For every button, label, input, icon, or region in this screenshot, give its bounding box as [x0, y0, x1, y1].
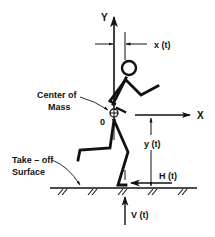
head — [122, 61, 136, 75]
y-axis-label: Y — [101, 12, 108, 23]
center-of-mass-symbol — [110, 109, 118, 117]
x-axis-label: X — [197, 110, 204, 121]
surface-label-line2: Surface — [12, 167, 45, 177]
x-t-label: x (t) — [154, 40, 171, 50]
center-of-mass-label-line1: Center of — [37, 90, 78, 100]
v-t-force: V (t) — [125, 197, 149, 225]
take-off-surface — [50, 188, 197, 195]
surface-leader — [52, 160, 80, 185]
y-t-label: y (t) — [144, 139, 161, 149]
v-t-label: V (t) — [131, 210, 149, 220]
surface-label-line1: Take – off — [12, 155, 54, 165]
runner-figure — [78, 61, 158, 185]
h-t-label: H (t) — [159, 171, 177, 181]
center-of-mass-leader — [80, 97, 108, 110]
takeoff-diagram: Y x (t) 0 Center of Mass X — [0, 0, 215, 237]
origin-label: 0 — [100, 117, 105, 127]
h-t-force: H (t) — [131, 171, 177, 183]
center-of-mass-label-line2: Mass — [48, 102, 71, 112]
x-axis: X — [135, 110, 204, 121]
x-t-dimension: x (t) — [95, 32, 171, 60]
